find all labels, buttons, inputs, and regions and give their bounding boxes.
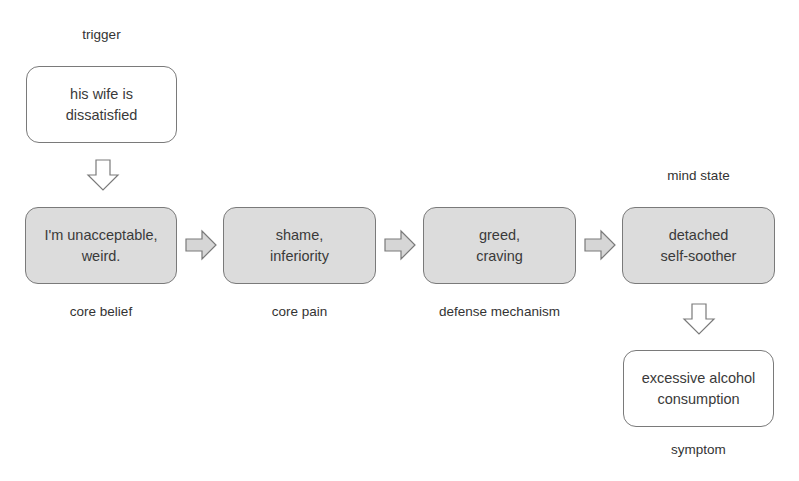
node-symptom: excessive alcohol consumption — [623, 350, 774, 427]
node-core-pain: shame, inferiority — [223, 207, 376, 284]
label-mind-state: mind state — [622, 168, 775, 183]
node-trigger-text: his wife is dissatisfied — [66, 84, 138, 126]
node-trigger: his wife is dissatisfied — [26, 66, 177, 143]
label-trigger: trigger — [26, 27, 177, 42]
label-symptom: symptom — [623, 442, 774, 457]
label-core-belief: core belief — [25, 304, 177, 319]
node-defense-mechanism: greed, craving — [423, 207, 576, 284]
arrow-right-icon — [384, 229, 416, 261]
arrow-right-icon — [185, 229, 217, 261]
node-core-belief: I'm unacceptable, weird. — [25, 207, 177, 284]
arrow-right-icon — [584, 229, 616, 261]
label-defense-mechanism: defense mechanism — [423, 304, 576, 319]
node-core-belief-text: I'm unacceptable, weird. — [44, 225, 157, 267]
node-mind-state-text: detached self-soother — [661, 225, 737, 267]
node-defense-mechanism-text: greed, craving — [476, 225, 523, 267]
label-core-pain: core pain — [223, 304, 376, 319]
arrow-down-icon — [86, 158, 120, 192]
node-mind-state: detached self-soother — [622, 207, 775, 284]
node-symptom-text: excessive alcohol consumption — [642, 368, 756, 410]
arrow-down-icon — [682, 302, 716, 336]
node-core-pain-text: shame, inferiority — [270, 225, 329, 267]
